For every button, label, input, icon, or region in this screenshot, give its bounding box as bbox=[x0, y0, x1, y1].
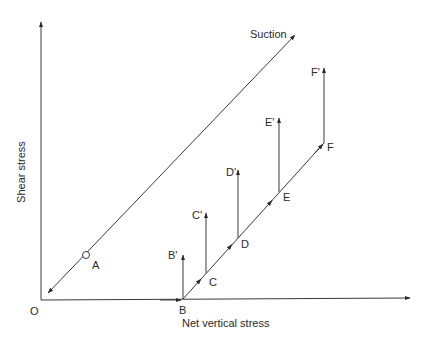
point-e-label: E bbox=[283, 191, 290, 203]
y-axis-label: Shear stress bbox=[15, 141, 27, 203]
point-f-label: F bbox=[327, 141, 334, 153]
point-e-prime-label: E' bbox=[265, 116, 274, 128]
point-c-prime-label: C' bbox=[192, 209, 202, 221]
stress-path-line bbox=[183, 143, 324, 299]
point-b-prime-label: B' bbox=[168, 249, 177, 261]
point-f-prime-label: F' bbox=[311, 66, 320, 78]
point-d-label: D bbox=[241, 238, 249, 250]
origin-label: O bbox=[30, 305, 39, 317]
x-axis-label: Net vertical stress bbox=[182, 317, 270, 329]
suction-label: Suction bbox=[250, 28, 287, 40]
point-c-label: C bbox=[209, 276, 217, 288]
x-axis bbox=[41, 298, 410, 300]
point-d-prime-label: D' bbox=[226, 166, 236, 178]
point-b-label: B bbox=[179, 304, 186, 316]
point-a-marker bbox=[83, 252, 90, 259]
point-a-label: A bbox=[92, 259, 100, 271]
stress-path-diagram: Shear stress Net vertical stress O Sucti… bbox=[0, 0, 431, 345]
